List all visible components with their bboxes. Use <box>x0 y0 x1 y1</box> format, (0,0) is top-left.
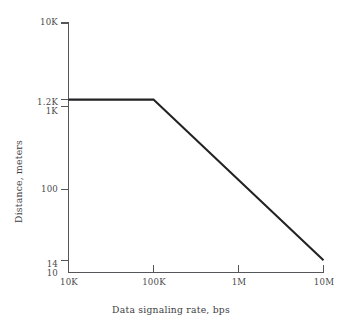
y-axis-title: Distance, meters <box>13 122 24 242</box>
x-tick-label-100k: 100K <box>132 278 176 287</box>
x-tick-label-10k: 10K <box>48 278 90 287</box>
y-tick-label-10: 10 <box>14 269 58 278</box>
x-axis-title: Data signaling rate, bps <box>0 304 342 315</box>
x-tick-label-1m: 1M <box>219 278 259 287</box>
x-tick-label-10m: 10M <box>303 278 342 287</box>
chart-figure: 10K 1.2K 1K 100 14 10 10K 100K 1M 10M Da… <box>0 0 342 323</box>
axis-spines <box>69 23 325 273</box>
y-tick-label-1k: 1K <box>14 107 58 116</box>
data-series-line <box>69 100 324 261</box>
y-tick-label-10k: 10K <box>14 18 58 27</box>
